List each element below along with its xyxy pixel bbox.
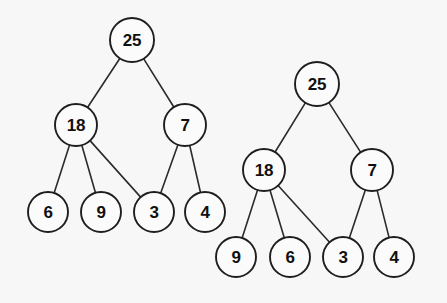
node-label: 4: [389, 248, 399, 267]
tree-edge-7-to-4: [377, 189, 389, 238]
tree-diagram-svg: 251876934251879634: [0, 0, 447, 303]
node-label: 3: [338, 248, 347, 267]
tree-edge-25-to-7: [143, 58, 174, 108]
node-label: 25: [123, 31, 141, 50]
tree-edge-18-to-3: [277, 185, 330, 243]
tree-edge-18-to-9: [242, 189, 258, 239]
tree-edge-7-to-3: [160, 144, 178, 194]
node-label: 18: [67, 116, 85, 135]
node-label: 6: [285, 248, 294, 267]
tree-node-18[interactable]: 18: [55, 104, 97, 146]
node-label: 9: [96, 203, 105, 222]
tree-edge-18-to-6: [54, 144, 70, 194]
tree-edge-7-to-3: [349, 189, 366, 239]
right-tree: 251879634: [216, 62, 414, 277]
tree-node-4[interactable]: 4: [185, 192, 225, 232]
node-label: 25: [308, 75, 326, 94]
node-label: 3: [149, 203, 158, 222]
tree-node-9[interactable]: 9: [81, 192, 121, 232]
tree-node-25[interactable]: 25: [295, 62, 339, 106]
tree-node-9[interactable]: 9: [216, 237, 256, 277]
tree-edge-18-to-9: [82, 144, 96, 194]
tree-node-6[interactable]: 6: [28, 192, 68, 232]
tree-edge-25-to-18: [87, 58, 120, 109]
tree-node-3[interactable]: 3: [134, 192, 174, 232]
node-label: 7: [180, 116, 189, 135]
tree-edge-7-to-4: [189, 144, 200, 193]
node-label: 6: [43, 203, 52, 222]
tree-node-18[interactable]: 18: [243, 149, 285, 191]
diagram-canvas: 251876934251879634: [0, 0, 447, 303]
tree-node-7[interactable]: 7: [164, 104, 206, 146]
tree-edge-18-to-6: [270, 189, 285, 239]
tree-node-7[interactable]: 7: [351, 149, 393, 191]
tree-edge-25-to-18: [274, 102, 305, 153]
node-label: 9: [231, 248, 240, 267]
node-label: 7: [367, 161, 376, 180]
tree-edge-25-to-7: [328, 102, 361, 153]
left-tree: 251876934: [28, 18, 225, 232]
tree-node-4[interactable]: 4: [374, 237, 414, 277]
node-label: 18: [255, 161, 273, 180]
tree-node-3[interactable]: 3: [323, 237, 363, 277]
node-label: 4: [200, 203, 210, 222]
tree-node-6[interactable]: 6: [270, 237, 310, 277]
tree-node-25[interactable]: 25: [110, 18, 154, 62]
tree-edge-18-to-3: [89, 140, 141, 198]
